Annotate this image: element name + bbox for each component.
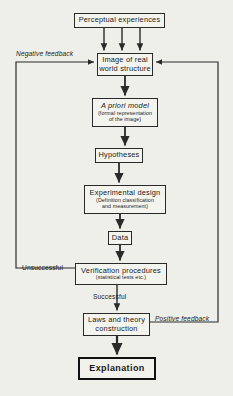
- node-image-of-real-world-structure: Image of real world structure: [97, 53, 153, 76]
- node-label: Perceptual experiences: [79, 16, 161, 24]
- node-label: Hypotheses: [98, 151, 139, 159]
- label-unsuccessful: Unsuccessful: [22, 264, 63, 271]
- node-a-priori-model: A priori model (formal representation of…: [92, 98, 158, 127]
- node-laws-and-theory-construction: Laws and theory construction: [83, 313, 150, 336]
- node-sublabel: (formal representation of the image): [98, 111, 152, 123]
- label-successful: Successful: [93, 293, 126, 300]
- node-perceptual-experiences: Perceptual experiences: [74, 13, 165, 28]
- label-negative-feedback: Negative feedback: [16, 50, 73, 57]
- node-label: Explanation: [89, 363, 144, 373]
- node-data: Data: [108, 231, 132, 245]
- flowchart-diagram: Perceptual experiences Image of real wor…: [0, 0, 233, 396]
- node-verification-procedures: Verification procedures (statistical tes…: [75, 263, 167, 285]
- node-explanation: Explanation: [78, 357, 156, 380]
- label-positive-feedback: Positive feedback: [155, 315, 209, 322]
- node-label: Data: [112, 234, 128, 242]
- node-label: Image of real world structure: [99, 56, 150, 73]
- node-sublabel: (Definition classification and measureme…: [96, 198, 154, 210]
- node-sublabel: (statistical tests etc.): [96, 275, 146, 281]
- connector-negative-feedback-loop: [16, 62, 94, 268]
- node-experimental-design: Experimental design (Definition classifi…: [84, 185, 166, 214]
- node-hypotheses: Hypotheses: [95, 148, 143, 163]
- node-label: Laws and theory construction: [88, 316, 145, 333]
